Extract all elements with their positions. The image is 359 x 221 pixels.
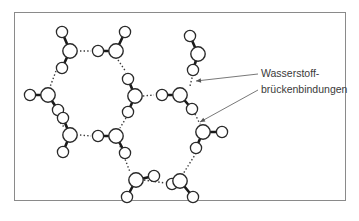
- label-pointers: [196, 74, 258, 122]
- hydrogen-atom: [24, 89, 35, 100]
- hydrogen-atom: [186, 103, 197, 114]
- oxygen-atom: [109, 44, 123, 58]
- oxygen-atom: [63, 44, 77, 58]
- hydrogen-bond: [195, 114, 200, 124]
- pointer-line: [200, 90, 258, 122]
- hydrogen-atom: [121, 191, 132, 202]
- oxygen-atom: [173, 174, 187, 188]
- hydrogen-bond: [143, 95, 154, 96]
- hydrogen-atom: [148, 170, 159, 181]
- label-line-2: brückenbindungen: [261, 83, 348, 95]
- oxygen-atom: [109, 129, 123, 143]
- pointer-line: [196, 74, 258, 81]
- oxygen-atom: [128, 89, 142, 103]
- oxygen-atom: [129, 173, 143, 187]
- hydrogen-atom: [187, 64, 198, 75]
- oxygen-atom: [196, 125, 210, 139]
- hydrogen-atom: [122, 73, 133, 84]
- arrowhead-icon: [196, 78, 201, 82]
- hydrogen-atom: [190, 142, 201, 153]
- hydrogen-bond-diagram: Wasserstoff- brückenbindungen: [0, 0, 359, 221]
- hydrogen-atom: [122, 106, 133, 117]
- hydrogen-bond: [120, 118, 126, 128]
- hydrogen-atom: [92, 45, 103, 56]
- oxygen-atom: [191, 47, 205, 61]
- oxygen-atom: [41, 88, 55, 102]
- hydrogen-atom: [57, 112, 68, 123]
- oxygen-atom: [173, 88, 187, 102]
- hydrogen-bond: [50, 71, 56, 87]
- hydrogen-atom: [57, 146, 68, 157]
- hydrogen-atom: [216, 126, 227, 137]
- hydrogen-atom: [119, 26, 130, 37]
- oxygen-atom: [63, 128, 77, 142]
- hydrogen-atom: [119, 147, 130, 158]
- hydrogen-bond: [80, 135, 91, 136]
- diagram-frame: [15, 13, 346, 201]
- label-line-1: Wasserstoff-: [261, 67, 320, 79]
- hydrogen-atom: [56, 62, 67, 73]
- hydrogen-atom: [187, 191, 198, 202]
- hydrogen-atom: [156, 89, 167, 100]
- atoms: [24, 26, 227, 202]
- hydrogen-atom: [56, 26, 67, 37]
- hydrogen-bond: [118, 60, 126, 72]
- hydrogen-atom: [184, 30, 195, 41]
- hydrogen-atom: [92, 130, 103, 141]
